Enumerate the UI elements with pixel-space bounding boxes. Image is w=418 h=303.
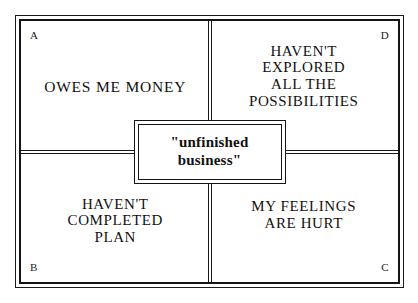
quadrant-top-right-label: HAVEN'T EXPLORED ALL THE POSSIBILITIES xyxy=(243,43,364,110)
center-concept-box-inner: "unfinished business" xyxy=(138,124,282,180)
quadrant-bottom-left-label: HAVEN'T COMPLETED PLAN xyxy=(62,196,169,246)
quadrant-bottom-right-label: MY FEELINGS ARE HURT xyxy=(245,198,362,232)
corner-label-c: C xyxy=(381,262,389,273)
corner-label-b: B xyxy=(30,262,38,273)
quadrant-diagram-frame: OWES ME MONEY HAVEN'T EXPLORED ALL THE P… xyxy=(15,15,404,288)
quadrant-top-left-label: OWES ME MONEY xyxy=(38,78,192,95)
corner-label-a: A xyxy=(30,30,38,41)
center-concept-box: "unfinished business" xyxy=(134,120,286,184)
center-concept-label: "unfinished business" xyxy=(170,134,248,169)
corner-label-d: D xyxy=(381,30,389,41)
quadrant-diagram-inner-frame: OWES ME MONEY HAVEN'T EXPLORED ALL THE P… xyxy=(19,19,400,284)
